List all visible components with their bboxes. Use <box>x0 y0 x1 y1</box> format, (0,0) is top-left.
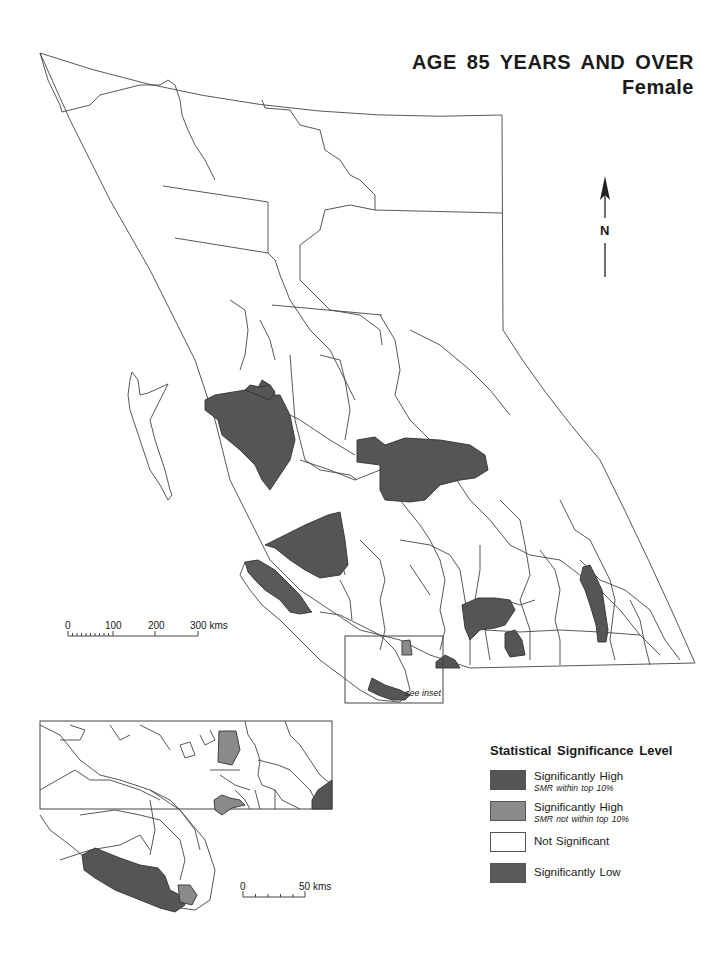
inset-scale-tick-0: 0 <box>240 881 246 892</box>
legend: Statistical Significance Level Significa… <box>490 743 710 894</box>
main-scale-tick-200: 200 <box>148 620 165 631</box>
legend-item-not-significant: Not Significant <box>490 832 710 863</box>
province-outline <box>40 53 695 668</box>
inset-region-fraser-east[interactable] <box>312 780 332 809</box>
legend-title: Statistical Significance Level <box>490 743 710 758</box>
legend-swatch <box>490 863 526 883</box>
legend-swatch <box>490 770 526 790</box>
main-scale-tick-0: 0 <box>65 620 71 631</box>
haida-gwaii <box>128 372 172 500</box>
see-inset-label: see inset <box>405 688 441 698</box>
region-south-vancouver-island[interactable] <box>368 678 410 700</box>
main-scale-tick-300: 300 kms <box>190 620 228 631</box>
inset-scale-bar <box>243 891 305 897</box>
legend-sublabel: SMR within top 10% <box>534 783 623 793</box>
region-vancouver-north[interactable] <box>402 640 412 655</box>
legend-item-sig-high-not-top10: Significantly High SMR not within top 10… <box>490 801 710 832</box>
inset-region-victoria[interactable] <box>178 885 197 905</box>
legend-label: Significantly High <box>534 770 623 782</box>
legend-label: Not Significant <box>534 835 609 847</box>
legend-item-sig-high-top10: Significantly High SMR within top 10% <box>490 770 710 801</box>
inset-map <box>40 721 332 912</box>
main-scale-tick-100: 100 <box>105 620 122 631</box>
inset-region-north-shore[interactable] <box>218 731 240 765</box>
inset-region-south-vi[interactable] <box>82 848 185 912</box>
legend-item-sig-low: Significantly Low <box>490 863 710 894</box>
inset-region-delta[interactable] <box>214 795 245 815</box>
inset-scale-tick-50: 50 kms <box>299 881 331 892</box>
legend-label: Significantly High <box>534 801 623 813</box>
legend-label: Significantly Low <box>534 866 621 878</box>
main-scale-bar <box>68 631 198 636</box>
legend-swatch <box>490 801 526 821</box>
north-label: N <box>600 223 609 238</box>
legend-sublabel: SMR not within top 10% <box>534 814 629 824</box>
legend-swatch <box>490 832 526 852</box>
